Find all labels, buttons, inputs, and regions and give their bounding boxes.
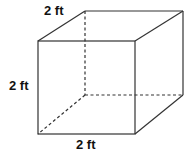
edge-bottom-right-diagonal bbox=[135, 95, 183, 134]
width-label: 2 ft bbox=[76, 138, 96, 151]
edge-top-right-diagonal bbox=[135, 11, 183, 41]
height-label: 2 ft bbox=[9, 79, 29, 92]
depth-label: 2 ft bbox=[44, 4, 64, 17]
front-face bbox=[38, 41, 135, 134]
hidden-edge-diagonal bbox=[38, 95, 85, 134]
